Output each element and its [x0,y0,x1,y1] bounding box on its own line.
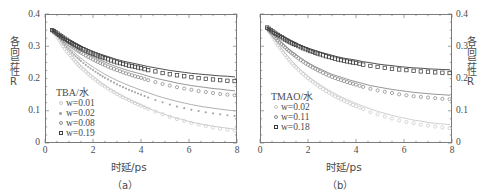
data-point [122,86,124,88]
data-point [318,86,321,89]
data-point [390,117,393,120]
anisotropy-decay-figure: 各向异性R 0.4 0.3 0.2 0.1 0 0 2 4 6 8 时延/ps … [0,0,483,196]
data-point [289,60,292,63]
data-point [211,91,214,94]
x-tick-label: 0 [250,145,270,155]
data-point [125,87,127,89]
data-point [226,93,229,96]
data-point [211,78,214,81]
data-point [434,125,437,128]
data-point [354,83,357,86]
data-point [161,71,164,74]
data-point [233,79,236,82]
y-tick-label: 0.1 [14,105,40,115]
data-point [97,72,99,74]
data-point [369,64,372,67]
data-point [419,123,422,126]
data-point [89,51,92,54]
legend-label: w=0.02 [66,108,95,118]
data-point [205,111,207,113]
data-point [175,86,178,89]
marker-circle-open-icon [270,105,281,109]
y-tick-label: 0.3 [14,41,40,51]
data-point [139,76,142,79]
x-axis-title: 时延/ps [111,159,147,174]
data-point [183,107,185,109]
data-point [71,52,73,54]
data-point [426,96,429,99]
data-point [176,105,178,107]
data-point [128,89,130,91]
y-tick-label: 0.3 [456,41,482,51]
panel-caption-a: （a） [112,177,138,192]
data-point [113,82,115,84]
data-point [412,95,415,98]
data-point [73,54,75,56]
data-point [147,79,150,82]
data-point [119,85,121,87]
data-point [134,91,136,93]
data-point [426,124,429,127]
data-point [362,63,365,66]
data-point [78,58,80,60]
y-tick-label: 0.1 [456,105,482,115]
data-point [80,60,82,62]
data-point [154,99,156,101]
y-tick-label: 0.2 [14,73,40,83]
marker-dot-filled-icon [55,112,66,115]
data-point [306,48,309,51]
data-point [390,91,393,94]
data-point [233,129,236,132]
legend-title: TMAO/水 [270,92,313,102]
panel-caption-b: （b） [327,177,353,192]
data-point [369,110,372,113]
legend-item: w=0.01 [55,98,95,108]
data-point [154,80,157,83]
data-point [168,84,171,87]
data-point [183,87,186,90]
data-point [69,50,71,52]
data-point [376,65,379,68]
data-point [226,79,229,82]
x-tick-label: 2 [83,145,103,155]
data-point [76,57,78,59]
data-point [405,68,408,71]
data-point [419,70,422,73]
y-tick-label: 0.2 [456,73,482,83]
data-point [354,105,357,108]
data-point [441,126,444,129]
data-point [99,74,101,76]
data-point [219,113,221,115]
data-point [321,88,324,91]
data-point [64,44,66,46]
y-tick-label: 0.4 [14,9,40,19]
data-point [92,69,94,71]
data-point [154,70,157,73]
data-point [94,53,97,56]
data-point [183,75,186,78]
data-point [147,96,149,98]
marker-square-open-icon [55,131,66,135]
data-point [419,95,422,98]
data-point [82,62,84,64]
data-point [169,104,171,106]
data-point [197,76,200,79]
legend-label: w=0.01 [66,98,95,108]
data-point [144,95,146,97]
data-point [116,83,118,85]
data-point [434,97,437,100]
data-point [87,66,89,68]
data-point [67,48,69,50]
data-point [383,115,386,118]
data-point [162,101,164,103]
data-point [376,113,379,116]
x-tick-label: 6 [179,145,199,155]
data-point [405,94,408,97]
data-point [107,78,109,80]
x-axis-title: 时延/ps [326,159,362,174]
data-point [324,89,327,92]
data-point [405,120,408,123]
data-point [441,97,444,100]
data-point [398,68,401,71]
data-point [398,119,401,122]
